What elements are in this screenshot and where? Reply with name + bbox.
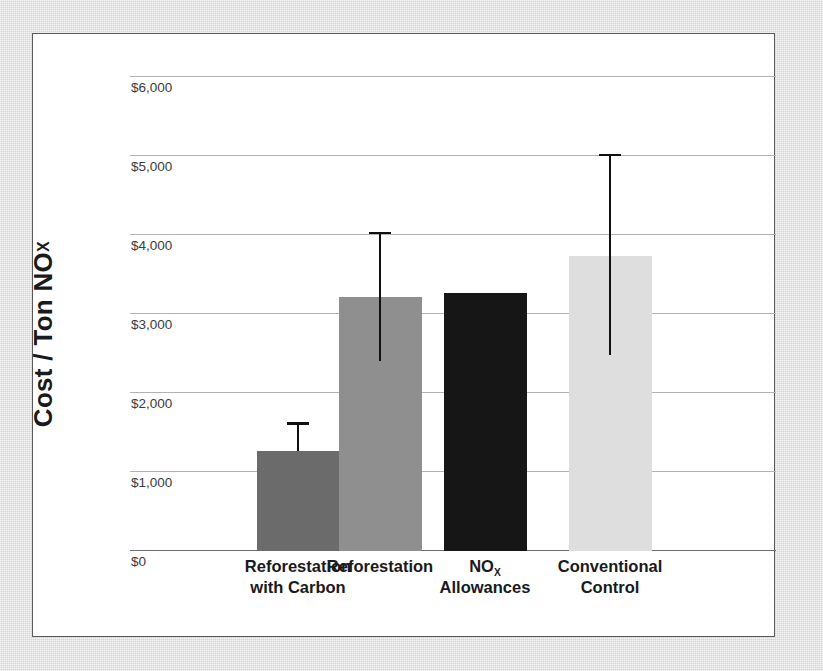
category-label-line: Conventional [525, 556, 695, 577]
chart-figure-frame: Cost / Ton NOX $0$1,000$2,000$3,000$4,00… [32, 33, 775, 637]
error-bar-stem [379, 234, 381, 361]
error-bar-cap-upper [599, 154, 621, 157]
bar [444, 293, 527, 551]
y-axis-title-main: Cost / Ton NO [28, 252, 59, 427]
error-bar-stem [609, 156, 611, 355]
category-label-main: NO [469, 557, 494, 575]
bars-series [130, 69, 776, 551]
bar [257, 451, 340, 551]
x-axis-category-labels: Reforestationwith CarbonReforestationNOX… [130, 556, 776, 626]
x-axis-category-label: ConventionalControl [525, 556, 695, 598]
y-axis-title: Cost / Ton NOX [23, 184, 63, 484]
category-label-line: with Carbon [213, 577, 383, 598]
plot-area: $0$1,000$2,000$3,000$4,000$5,000$6,000 [130, 69, 776, 551]
category-label-line: Control [525, 577, 695, 598]
error-bar-cap-upper [369, 232, 391, 235]
error-bar-stem [297, 425, 299, 451]
error-bar-cap-upper [287, 422, 309, 425]
